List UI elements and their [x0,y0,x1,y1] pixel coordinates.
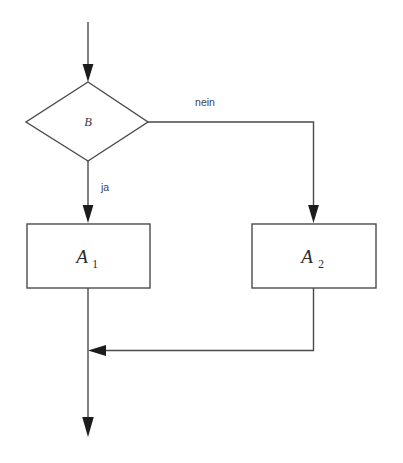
node-action-1 [27,224,150,288]
entry-arrowhead-icon [83,64,94,82]
merge-branch-arrowhead-icon [88,345,106,356]
exit-arrowhead-icon [82,417,94,437]
edge-true-branch [83,161,94,223]
true-branch-label: ja [100,181,109,193]
edge-entry [83,22,94,82]
condition-label: B [84,115,92,129]
action-1-label-subscript: 1 [92,258,98,270]
action-2-box-shape [252,224,376,288]
node-action-2 [252,224,376,288]
edge-merge-branch [88,288,314,356]
true-branch-arrowhead-icon [83,205,94,223]
false-branch-line [148,122,314,210]
action-1-label-main: A [74,246,88,267]
action-2-label-subscript: 2 [318,258,324,270]
false-branch-arrowhead-icon [308,205,319,223]
action-1-box-shape [27,224,150,288]
flowchart-diagram: B nein ja A 1 A 2 [0,0,403,463]
flowchart-canvas: B nein ja A 1 A 2 [0,0,403,463]
action-2-label-main: A [299,246,313,267]
false-branch-label: nein [195,96,215,108]
edge-exit [82,288,94,437]
edge-false-branch [148,122,319,223]
merge-branch-line [101,288,314,351]
